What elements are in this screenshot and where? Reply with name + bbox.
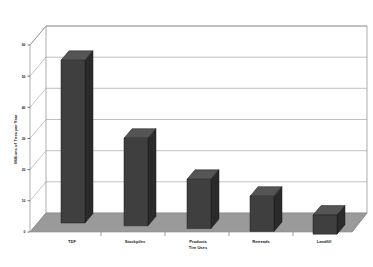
ytick-label-50: 50 <box>22 75 26 79</box>
ytick-label-60: 60 <box>22 43 26 47</box>
bar-side-face <box>211 170 219 229</box>
bar-products-tire-uses <box>187 170 219 229</box>
tick-leaders <box>30 26 46 201</box>
xtick-label-products-line1: Products <box>189 239 207 244</box>
bar-chart: 60 50 40 30 20 10 0 Millions of Tires pe… <box>0 0 373 267</box>
ytick-label-10: 10 <box>22 199 26 203</box>
bar-front-face <box>187 179 211 228</box>
bar-front-face <box>124 138 148 226</box>
bar-retreads <box>250 187 282 232</box>
ytick-label-0: 0 <box>24 230 26 234</box>
xtick-label-landfill: Landfill <box>317 239 332 244</box>
xtick-label-retreads: Retreads <box>252 239 270 244</box>
bar-stockpiles <box>124 129 156 226</box>
bar-front-face <box>61 60 85 223</box>
bar-front-face <box>250 196 274 231</box>
tick-leader-60 <box>30 26 46 45</box>
tick-leader-40 <box>30 88 46 107</box>
bar-side-face <box>148 129 156 226</box>
y-axis-ticks: 60 50 40 30 20 10 0 <box>22 43 30 234</box>
ytick-label-30: 30 <box>22 137 26 141</box>
bar-front-face <box>313 215 337 234</box>
xtick-label-products-line2: Tire Uses <box>189 245 208 250</box>
bar-tdf <box>61 51 93 223</box>
xtick-label-tdf: TDF <box>68 239 76 244</box>
y-axis-title: Millions of Tires per Year <box>13 114 18 164</box>
bar-side-face <box>85 51 93 223</box>
chart-canvas: 60 50 40 30 20 10 0 Millions of Tires pe… <box>0 0 373 267</box>
ytick-label-20: 20 <box>22 168 26 172</box>
tick-leader-20 <box>30 151 46 170</box>
xtick-label-stockpiles: Stockpiles <box>125 239 146 244</box>
x-axis-ticks <box>101 232 293 236</box>
tick-leader-50 <box>30 57 46 76</box>
tick-leader-30 <box>30 120 46 139</box>
ytick-label-40: 40 <box>22 106 26 110</box>
tick-leader-10 <box>30 182 46 201</box>
bar-landfill <box>313 206 345 235</box>
